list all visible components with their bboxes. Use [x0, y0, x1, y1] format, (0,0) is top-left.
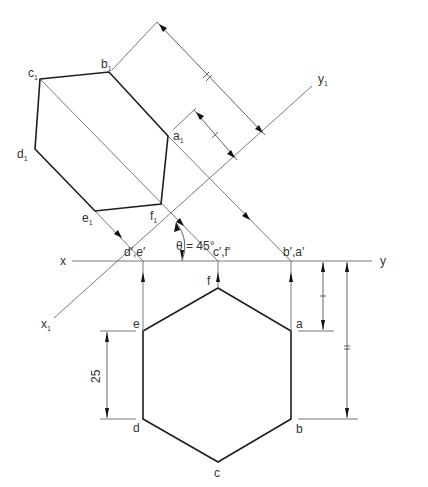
arrow-up-e	[141, 272, 145, 282]
y-label: y	[380, 254, 386, 268]
projection-drawing: x y x1 y1 θ = 45° d′,e′ c′,f′ b′,a′	[0, 0, 428, 487]
vertex-c: c	[214, 466, 220, 480]
vertex-e1: e1	[82, 211, 93, 226]
dim-arrow	[105, 408, 109, 418]
ext-line-b1	[112, 22, 157, 70]
arrow-ba	[242, 212, 250, 220]
arrow-up-f	[216, 272, 220, 282]
vertex-b: b	[296, 422, 303, 436]
projector-cf-aux	[40, 79, 218, 261]
dim-arrow	[227, 150, 235, 158]
vertex-b1: b1	[101, 57, 112, 72]
vertex-d1: d1	[17, 147, 28, 162]
vertex-f: f	[207, 274, 211, 288]
vertex-d: d	[133, 421, 140, 435]
angle-label: θ = 45°	[176, 239, 215, 253]
ext-line-a1	[173, 108, 196, 130]
label-cf-prime: c′,f′	[213, 245, 231, 259]
vertex-c1: c1	[28, 66, 38, 81]
plan-hexagon	[143, 288, 291, 462]
dim-arrow	[345, 262, 349, 272]
dim-aux-ba-long	[157, 22, 265, 135]
label-de-prime: d′,e′	[124, 245, 146, 259]
y1-label: y1	[318, 72, 328, 87]
vertex-a: a	[296, 317, 303, 331]
dim-arrow	[196, 112, 204, 120]
dim-arrow	[105, 332, 109, 342]
dim-arrow	[345, 408, 349, 418]
dim-arrow	[321, 262, 325, 272]
vertex-e: e	[133, 317, 140, 331]
arrow-de	[114, 230, 122, 238]
dim-arrow	[321, 320, 325, 330]
x-label: x	[60, 254, 66, 268]
x1-label: x1	[41, 317, 51, 332]
vertex-a1: a1	[173, 129, 184, 144]
arrow-up-a	[289, 272, 293, 282]
label-ba-prime: b′,a′	[283, 245, 305, 259]
dim-25-label: 25	[89, 369, 103, 383]
vertex-f1: f1	[150, 209, 157, 224]
